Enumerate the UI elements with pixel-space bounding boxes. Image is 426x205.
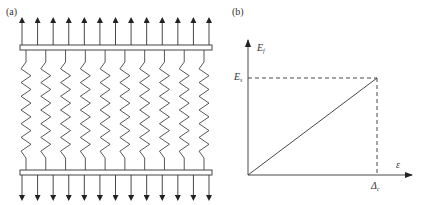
bottom-force-arrows [22, 175, 209, 198]
x-axis-label: ε [396, 160, 400, 170]
spring [80, 50, 90, 170]
spring [100, 50, 110, 170]
panel-a-spring-model: (a) [0, 0, 230, 205]
linear-response-chart [230, 0, 426, 205]
spring [199, 50, 209, 170]
top-plate [20, 45, 212, 50]
spring-array-diagram [0, 0, 230, 205]
bottom-plate [20, 170, 212, 175]
spring [21, 50, 31, 170]
spring [120, 50, 130, 170]
spring [61, 50, 71, 170]
panel-b-stress-strain-chart: (b) Ef Es ε Δc [230, 0, 426, 205]
x-tick-label-Delta-c: Δc [371, 181, 380, 192]
y-axis-label: Ef [257, 43, 265, 54]
spring [140, 50, 150, 170]
top-force-arrows [22, 20, 209, 45]
y-tick-label-Es: Es [234, 72, 242, 83]
spring [159, 50, 169, 170]
linear-series [248, 78, 377, 175]
spring [41, 50, 51, 170]
spring [179, 50, 189, 170]
springs [21, 50, 209, 170]
